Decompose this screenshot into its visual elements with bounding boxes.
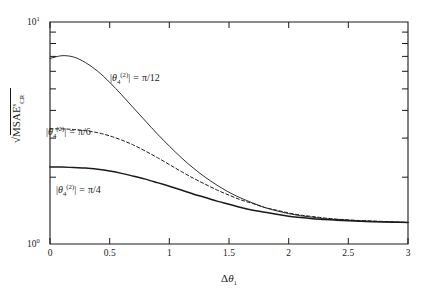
annot2-sub: 4 [63,190,67,197]
annot2-abs-close: | [74,184,76,195]
annotation-pi-4-text: |θ4(2)|=π/4 [56,183,101,197]
annot1-sub: 4 [53,132,57,139]
x-axis-ticks [50,22,408,244]
x-tick-label-1-5: 1.5 [223,248,235,258]
x-tick-label-2: 2 [286,248,291,258]
annot0-sup: (2) [120,71,128,79]
y-tick-top-exponent: 1 [37,15,40,22]
y-tick-label-top: 101 [27,15,40,27]
y-axis-minor-ticks [50,32,408,177]
annotation-pi-6-text: |θ4(2)|=π/6 [46,125,91,139]
annot0-abs-close: | [128,72,130,83]
annot1-abs-close: | [64,126,66,137]
axes-box [50,22,408,244]
y-axis-base: MSAE [10,106,22,137]
x-axis-label-text: Δθ1 [221,272,237,286]
y-axis-label: √MSAEsCR [10,88,25,143]
annot2-equals: = [79,184,85,195]
annot1-equals: = [69,126,75,137]
chart-svg: 0 0.5 1 1.5 2 2.5 3 101 100 √MSAEsCR Δθ1… [0,0,432,298]
x-axis-subscript: 1 [234,279,237,286]
annotation-pi-4: |θ4(2)|=π/4 [56,183,101,197]
y-axis-label-text: √MSAEsCR [10,94,25,143]
y-tick-labels: 101 100 [27,15,40,249]
x-tick-labels: 0 0.5 1 1.5 2 2.5 3 [48,248,411,258]
plot-frame [50,22,408,244]
x-tick-label-2-5: 2.5 [342,248,354,258]
data-curves [50,56,408,223]
y-axis-subscript: CR [18,94,25,104]
annot0-value: π/12 [142,72,160,83]
annot0-equals: = [133,72,139,83]
y-tick-label-bottom: 100 [27,237,40,249]
x-tick-label-1: 1 [167,248,172,258]
x-axis-delta: Δ [221,272,228,284]
y-tick-bottom-mantissa: 10 [27,239,37,249]
x-tick-label-3: 3 [406,248,411,258]
curve-pi-6 [50,129,408,223]
annotation-pi-12: |θ4(2)|=π/12 [110,71,160,85]
x-tick-label-0-5: 0.5 [104,248,116,258]
annot2-value: π/4 [88,184,101,195]
annot2-sup: (2) [66,183,74,191]
annot0-sub: 4 [117,78,121,85]
annotation-pi-6: |θ4(2)|=π/6 [46,125,91,139]
figure-container: 0 0.5 1 1.5 2 2.5 3 101 100 √MSAEsCR Δθ1… [0,0,432,298]
annot1-sup: (2) [56,125,64,133]
y-tick-bottom-exponent: 0 [37,237,40,244]
y-axis-superscript: s [10,103,17,106]
x-tick-label-0: 0 [48,248,53,258]
annotation-pi-12-text: |θ4(2)|=π/12 [110,71,160,85]
x-axis-label: Δθ1 [221,272,237,286]
y-tick-top-mantissa: 10 [27,17,37,27]
annot1-value: π/6 [78,126,91,137]
curve-pi-12 [50,56,408,223]
